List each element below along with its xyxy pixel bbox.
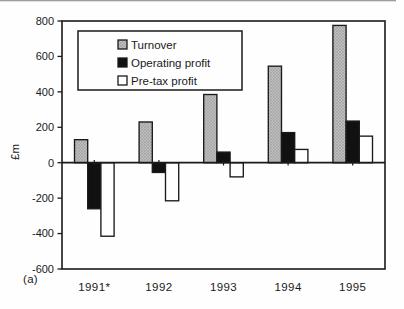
x-tick-label-1995: 1995 <box>339 281 366 293</box>
bar-turnover-1992 <box>139 122 152 163</box>
bar-operating-profit-1991 <box>88 163 101 209</box>
y-tick-label: 0 <box>48 157 54 169</box>
legend-label-operating-profit: Operating profit <box>131 57 211 69</box>
legend-label-turnover: Turnover <box>131 39 177 51</box>
bar-operating-profit-1994 <box>282 133 295 163</box>
bar-turnover-1991 <box>75 140 88 163</box>
plot-area: 8006004002000-200-400-6001991*1992199319… <box>32 15 385 293</box>
bar-pre-tax-profit-1992 <box>166 163 179 201</box>
x-tick-label-1991: 1991* <box>78 281 110 293</box>
bar-pre-tax-profit-1991 <box>101 163 114 237</box>
legend-swatch-pre-tax-profit <box>118 76 127 85</box>
x-tick-label-1994: 1994 <box>275 281 302 293</box>
bar-operating-profit-1995 <box>346 121 359 163</box>
bar-pre-tax-profit-1993 <box>230 163 243 177</box>
y-axis-title: £m <box>9 144 21 160</box>
bar-turnover-1995 <box>333 25 346 162</box>
y-tick-label: 400 <box>36 86 54 98</box>
scanned-bar-chart-figure: £m 8006004002000-200-400-6001991*1992199… <box>0 0 404 309</box>
bar-turnover-1994 <box>268 66 281 163</box>
bar-pre-tax-profit-1995 <box>359 136 372 163</box>
x-tick-label-1993: 1993 <box>210 281 237 293</box>
y-tick-label: -400 <box>32 227 54 239</box>
y-tick-label: -200 <box>32 192 54 204</box>
y-tick-label: 200 <box>36 121 54 133</box>
figure-panel-label: (a) <box>23 273 38 285</box>
y-tick-label: 800 <box>36 15 54 27</box>
y-tick-label: 600 <box>36 50 54 62</box>
legend-swatch-turnover <box>118 40 127 49</box>
bar-turnover-1993 <box>204 95 217 163</box>
x-tick-label-1992: 1992 <box>145 281 172 293</box>
legend-swatch-operating-profit <box>118 58 127 67</box>
legend-label-pre-tax-profit: Pre-tax profit <box>131 75 198 87</box>
bar-pre-tax-profit-1994 <box>295 149 308 162</box>
bar-chart: £m 8006004002000-200-400-6001991*1992199… <box>0 0 404 309</box>
scan-artifact-line <box>0 0 396 1</box>
